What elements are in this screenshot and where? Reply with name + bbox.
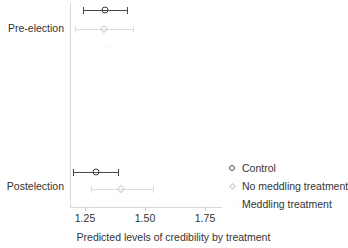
x-tick-mark-2 <box>145 207 146 211</box>
legend-diamond-icon <box>222 184 242 189</box>
x-tick-label-2: 1.50 <box>135 212 155 224</box>
ci-cap-left-pre-no-meddling <box>75 26 76 33</box>
ci-cap-left-post-no-meddling <box>91 186 92 193</box>
x-tick-label-1: 1.25 <box>75 212 95 224</box>
point-marker-post-no-meddling <box>117 185 125 193</box>
legend-blank-icon <box>222 202 242 207</box>
ci-cap-left-pre-control <box>83 7 84 14</box>
ci-cap-right-post-control <box>118 169 119 176</box>
legend-item-control: Control <box>222 160 347 176</box>
legend-circle-icon <box>222 165 242 171</box>
y-axis-line <box>70 3 71 207</box>
ci-cap-left-post-control <box>73 169 74 176</box>
ci-cap-right-pre-no-meddling <box>133 26 134 33</box>
point-marker-pre-meddling <box>104 42 112 50</box>
legend-item-no-meddling: No meddling treatment <box>222 178 347 194</box>
x-tick-mark-3 <box>205 207 206 211</box>
ci-cap-right-pre-control <box>127 7 128 14</box>
legend-label-no-meddling: No meddling treatment <box>242 179 348 193</box>
point-marker-pre-no-meddling <box>100 25 108 33</box>
x-tick-mark-1 <box>85 207 86 211</box>
y-axis-label-postelection: Postelection <box>2 180 64 192</box>
point-marker-pre-control <box>102 7 109 14</box>
x-axis-title: Predicted levels of credibility by treat… <box>0 231 347 243</box>
legend-label-meddling: Meddling treatment <box>242 197 332 211</box>
legend-label-control: Control <box>242 161 276 175</box>
ci-cap-right-post-no-meddling <box>153 186 154 193</box>
legend: Control No meddling treatment Meddling t… <box>222 160 347 214</box>
legend-item-meddling: Meddling treatment <box>222 196 347 212</box>
x-tick-label-3: 1.75 <box>195 212 215 224</box>
point-marker-post-control <box>93 169 100 176</box>
y-axis-label-pre-election: Pre-election <box>2 22 64 34</box>
x-axis-line <box>70 207 222 208</box>
point-marker-post-meddling <box>113 196 121 204</box>
